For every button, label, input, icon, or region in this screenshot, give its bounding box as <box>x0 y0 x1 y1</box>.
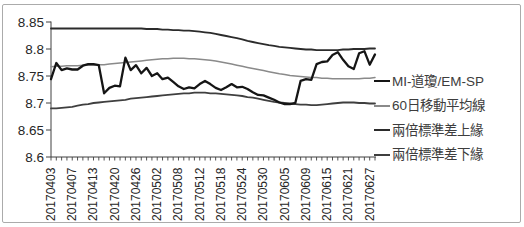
legend: MI-道瓊/EM-SP 60日移動平均線 兩倍標準差上緣 兩倍標準差下緣 <box>374 69 485 167</box>
legend-label-moving-average: 60日移動平均線 <box>392 99 485 113</box>
x-tick-label: 20170508 <box>171 167 185 221</box>
series-line-swatch-icon <box>374 105 390 107</box>
x-tick-label: 20170627 <box>363 167 377 221</box>
x-tick-label: 20170413 <box>86 167 100 221</box>
x-tick-label: 20170518 <box>214 167 228 221</box>
x-tick-label: 20170420 <box>108 167 122 221</box>
series-line-swatch-icon <box>374 129 390 131</box>
legend-label-lower-band: 兩倍標準差下緣 <box>392 148 483 162</box>
x-tick-label: 20170512 <box>193 167 207 221</box>
x-tick-label: 20170524 <box>235 167 249 221</box>
legend-row: 60日移動平均線 <box>374 94 485 119</box>
chart-frame: 8.858.88.758.78.658.62017040320170407201… <box>0 0 524 227</box>
series-line-3 <box>51 93 375 109</box>
y-tick-label: 8.85 <box>18 15 44 30</box>
x-tick-label: 20170502 <box>150 167 164 221</box>
series-line-2 <box>51 29 375 51</box>
x-tick-label: 20170530 <box>256 167 270 221</box>
legend-row: 兩倍標準差上緣 <box>374 118 485 143</box>
legend-row: MI-道瓊/EM-SP <box>374 69 485 94</box>
legend-label-upper-band: 兩倍標準差上緣 <box>392 124 483 138</box>
series-line-swatch-icon <box>374 154 390 156</box>
legend-label-main-series: MI-道瓊/EM-SP <box>392 75 484 89</box>
x-tick-label: 20170605 <box>278 167 292 221</box>
x-tick-label: 20170403 <box>44 167 58 221</box>
legend-row: 兩倍標準差下緣 <box>374 143 485 168</box>
x-tick-label: 20170621 <box>341 167 355 221</box>
y-tick-label: 8.8 <box>25 42 44 57</box>
y-tick-label: 8.7 <box>25 96 44 111</box>
x-tick-label: 20170615 <box>320 167 334 221</box>
x-tick-label: 20170407 <box>65 167 79 221</box>
y-tick-label: 8.6 <box>25 150 44 165</box>
y-tick-label: 8.65 <box>18 123 44 138</box>
y-tick-label: 8.75 <box>18 69 44 84</box>
x-tick-label: 20170609 <box>299 167 313 221</box>
series-line-swatch-icon <box>374 80 390 82</box>
x-tick-label: 20170426 <box>129 167 143 221</box>
